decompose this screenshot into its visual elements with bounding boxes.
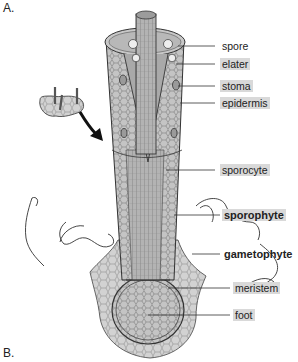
sporophyte-illustration bbox=[0, 0, 298, 362]
label-stoma: stoma bbox=[220, 80, 253, 92]
label-sporocyte: sporocyte bbox=[220, 164, 270, 176]
inset-small-plants bbox=[40, 87, 84, 117]
label-meristem: meristem bbox=[233, 282, 280, 294]
label-elater: elater bbox=[220, 58, 250, 70]
label-spore: spore bbox=[220, 40, 250, 52]
label-epidermis: epidermis bbox=[220, 97, 270, 109]
columella bbox=[136, 14, 156, 154]
label-sporophyte: sporophyte bbox=[222, 209, 286, 221]
foot bbox=[112, 276, 184, 344]
columella-region bbox=[126, 150, 164, 280]
label-foot: foot bbox=[233, 309, 255, 321]
arrow-icon bbox=[80, 112, 96, 134]
label-gametophyte: gametophyte bbox=[222, 248, 294, 260]
